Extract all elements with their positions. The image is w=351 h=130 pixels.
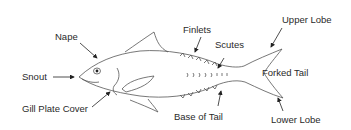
label-forked-tail: Forked Tail — [262, 68, 308, 78]
fish-outline — [79, 32, 283, 112]
label-snout: Snout — [22, 72, 47, 82]
leader-arrows — [53, 28, 283, 111]
label-lower-lobe: Lower Lobe — [271, 115, 321, 125]
label-finlets: Finlets — [183, 25, 211, 35]
label-gill-plate-cover: Gill Plate Cover — [22, 104, 88, 114]
label-scutes: Scutes — [215, 40, 244, 50]
label-base-of-tail: Base of Tail — [174, 112, 223, 122]
label-nape: Nape — [55, 32, 78, 42]
label-upper-lobe: Upper Lobe — [282, 15, 332, 25]
fish-anatomy-diagram: Nape Snout Gill Plate Cover Finlets Scut… — [0, 0, 351, 130]
